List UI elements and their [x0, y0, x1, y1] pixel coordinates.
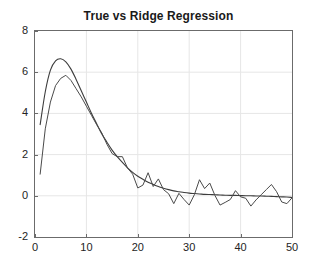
- x-tick-mark: [86, 234, 87, 238]
- x-tick-mark: [292, 234, 293, 238]
- y-tick-label: 6: [2, 66, 28, 77]
- chart-title: True vs Ridge Regression: [0, 9, 317, 23]
- plot-svg: [35, 31, 292, 237]
- y-tick-mark: [34, 155, 38, 156]
- y-tick-mark: [34, 196, 38, 197]
- y-tick-label: 2: [2, 149, 28, 160]
- y-tick-mark: [34, 72, 38, 73]
- x-tick-label: 30: [174, 242, 204, 253]
- y-tick-label: 4: [2, 107, 28, 118]
- series-line: [40, 75, 292, 206]
- y-tick-mark: [34, 113, 38, 114]
- plot-area: [34, 30, 293, 238]
- series-lines: [40, 59, 292, 206]
- x-tick-label: 10: [71, 242, 101, 253]
- x-tick-label: 0: [20, 242, 50, 253]
- x-tick-label: 40: [226, 242, 256, 253]
- grid-lines: [35, 31, 292, 237]
- y-tick-mark: [34, 31, 38, 32]
- x-tick-label: 50: [277, 242, 307, 253]
- x-tick-mark: [189, 234, 190, 238]
- y-tick-label: 8: [2, 25, 28, 36]
- y-tick-label: 0: [2, 190, 28, 201]
- figure-canvas: True vs Ridge Regression -202468 0102030…: [0, 0, 317, 269]
- x-tick-mark: [241, 234, 242, 238]
- x-tick-mark: [138, 234, 139, 238]
- y-tick-label: -2: [2, 231, 28, 242]
- x-tick-mark: [35, 234, 36, 238]
- series-line: [40, 59, 292, 198]
- x-tick-label: 20: [123, 242, 153, 253]
